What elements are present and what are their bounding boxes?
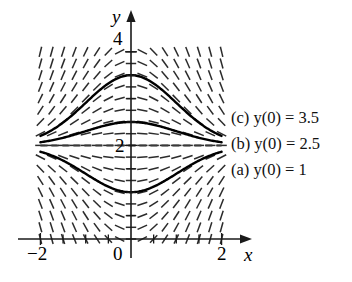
- slope-field-dash: [137, 202, 147, 205]
- slope-field-dash: [197, 199, 202, 208]
- slope-field-dash: [39, 70, 42, 80]
- slope-field-dash: [39, 58, 42, 68]
- slope-field-dash: [50, 211, 54, 221]
- slope-field-dash: [39, 47, 41, 57]
- slope-field-dash: [162, 212, 169, 220]
- slope-field-dash: [115, 202, 125, 205]
- slope-field-dash: [104, 108, 114, 112]
- slope-field-dash: [137, 109, 147, 111]
- slope-field-dash: [104, 60, 112, 67]
- slope-field-dash: [218, 118, 225, 125]
- slope-field-dash: [72, 71, 77, 80]
- slope-field-dash: [194, 132, 204, 136]
- slope-field-dash: [148, 156, 158, 157]
- slope-field-dash: [83, 223, 88, 232]
- slope-field-dash: [219, 176, 225, 185]
- slope-field-dash: [72, 223, 76, 233]
- slope-field-dash: [160, 167, 170, 171]
- slope-field-dash: [206, 165, 214, 172]
- slope-field-dash: [71, 177, 78, 184]
- slope-field-dash: [162, 47, 168, 56]
- slope-field-dash: [185, 82, 190, 91]
- slope-field-dash: [82, 107, 90, 113]
- slope-field-dash: [137, 168, 147, 169]
- slope-field-dash: [104, 224, 112, 231]
- slope-field-dash: [115, 97, 125, 100]
- slope-field-dash: [93, 200, 100, 207]
- slope-field-dash: [219, 106, 225, 115]
- slope-field-dash: [208, 211, 212, 221]
- slope-field-dash: [137, 180, 147, 182]
- slope-field-dash: [115, 85, 125, 88]
- slope-field-dash: [150, 60, 158, 67]
- slope-field-dash: [71, 188, 77, 196]
- slope-field-dash: [172, 120, 181, 125]
- slope-field-dash: [186, 223, 190, 233]
- slope-field-dash: [137, 85, 147, 88]
- slope-field-dash: [220, 211, 223, 221]
- slope-field-dash: [148, 133, 158, 134]
- slope-field-dash: [72, 82, 77, 91]
- slope-field-dash: [69, 156, 79, 159]
- slope-field-dash: [115, 225, 124, 229]
- slope-field-dash: [209, 59, 212, 69]
- slope-field-dash: [94, 223, 100, 231]
- slope-field-dash: [160, 156, 170, 158]
- slope-field-dash: [37, 118, 44, 125]
- slope-field-dash: [38, 176, 44, 185]
- slope-field-dash: [104, 96, 113, 101]
- slope-field-dash: [81, 156, 91, 159]
- slope-field-dash: [161, 200, 168, 207]
- slope-field-dash: [61, 82, 66, 91]
- slope-field-dash: [196, 106, 203, 114]
- slope-field-dash: [208, 94, 213, 103]
- slope-field-dash: [173, 83, 179, 91]
- slope-field-dash: [49, 106, 55, 114]
- slope-field-dash: [197, 47, 200, 57]
- slope-field-dash: [83, 83, 89, 91]
- slope-field-dash: [38, 188, 43, 197]
- slope-field-dash: [94, 59, 100, 67]
- y-axis-label: y: [112, 7, 120, 26]
- slope-field-dash: [137, 157, 147, 158]
- slope-field-dash: [209, 222, 212, 232]
- slope-field-dash: [206, 119, 214, 126]
- curve-label-c-text: (c) y(0) = 3.5: [231, 108, 319, 127]
- curve-label-b: (b) y(0) = 2.5: [231, 136, 320, 153]
- slope-field-dash: [103, 168, 113, 171]
- slope-field-dash: [83, 200, 89, 208]
- slope-field-dash: [137, 133, 147, 134]
- slope-field-dash: [220, 199, 224, 209]
- slope-field-dash: [184, 94, 190, 102]
- slope-field-dash: [150, 48, 157, 55]
- slope-field-dash: [115, 49, 124, 54]
- x-axis-arrow: [240, 234, 252, 243]
- slope-field-dash: [39, 222, 42, 232]
- slope-field-dash: [50, 47, 53, 57]
- slope-field-dash: [149, 108, 159, 112]
- slope-field-dash: [173, 188, 180, 195]
- slope-field-dash: [50, 199, 54, 209]
- slope-field-dash: [183, 119, 192, 125]
- slope-field-dash: [185, 199, 190, 208]
- slope-field-dash: [48, 165, 56, 172]
- slope-field-dash: [94, 71, 101, 79]
- slope-field-dash: [219, 94, 224, 103]
- slope-field-dash: [220, 222, 223, 232]
- slope-field-dash: [58, 132, 68, 136]
- slope-field-dash: [83, 59, 88, 68]
- slope-field-dash: [186, 59, 190, 69]
- slope-field-dash: [94, 212, 101, 220]
- curve-label-a-text: (a) y(0) = 1: [231, 160, 307, 179]
- slope-field-dash: [149, 190, 158, 195]
- slope-field-dash: [160, 133, 170, 135]
- slope-field-dash: [39, 211, 42, 221]
- slope-field-dash: [82, 188, 89, 195]
- slope-field-dash: [150, 224, 158, 231]
- slope-field-dash: [197, 59, 201, 69]
- slope-field-dash: [48, 119, 56, 126]
- slope-field-dash: [60, 106, 67, 114]
- slope-field-dash: [183, 156, 193, 159]
- slope-field-dash: [219, 188, 224, 197]
- slope-field-dash: [149, 179, 159, 183]
